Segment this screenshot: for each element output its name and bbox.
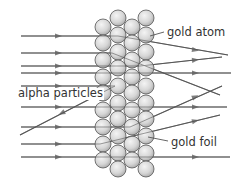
arrow-icon <box>55 104 62 109</box>
gold-atom <box>110 128 126 144</box>
gold-atom <box>95 102 111 118</box>
gold-atom <box>124 69 140 85</box>
arrow-icon <box>192 154 199 159</box>
arrow-icon <box>192 104 199 109</box>
gold-atom-label: gold atom <box>167 27 225 39</box>
gold-atom <box>124 136 140 152</box>
gold-atom <box>138 44 154 60</box>
gold-atom <box>138 111 154 127</box>
gold-atom <box>124 85 140 101</box>
gold-atom <box>110 60 126 76</box>
gold-atom <box>124 19 140 35</box>
arrow-icon <box>57 109 66 117</box>
gold-atom <box>138 78 154 94</box>
gold-atom <box>110 10 126 26</box>
gold-atom <box>95 152 111 168</box>
gold-atom <box>138 128 154 144</box>
arrow-icon <box>55 141 62 146</box>
arrow-icon <box>55 63 62 68</box>
arrow-icon <box>192 57 200 63</box>
arrow-icon <box>55 50 62 55</box>
alpha-particles-label: alpha particles <box>17 88 104 100</box>
arrow-icon <box>55 154 62 159</box>
gold-atom <box>95 19 111 35</box>
gold-foil-label: gold foil <box>171 137 217 149</box>
arrow-icon <box>191 118 199 125</box>
gold-atom <box>110 111 126 127</box>
arrow-icon <box>55 70 62 75</box>
gold-atom <box>138 10 154 26</box>
arrow-icon <box>192 70 199 75</box>
arrow-icon <box>55 33 62 38</box>
gold-atom <box>124 152 140 168</box>
gold-atom <box>110 95 126 111</box>
gold-atom <box>124 102 140 118</box>
gold-atom <box>138 95 154 111</box>
gold-atom <box>138 145 154 161</box>
gold-atom <box>138 161 154 177</box>
gold-atom <box>110 145 126 161</box>
gold-atom <box>95 69 111 85</box>
gold-atom <box>110 161 126 177</box>
gold-atom <box>110 27 126 43</box>
arrow-icon <box>55 124 62 129</box>
gold-atom <box>95 35 111 51</box>
